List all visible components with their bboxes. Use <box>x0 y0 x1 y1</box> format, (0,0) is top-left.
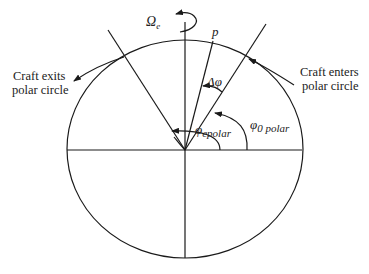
enter-label-line1: Craft enters <box>300 65 359 79</box>
center-arc-left <box>174 137 185 150</box>
exit-label-line2: polar circle <box>12 83 69 97</box>
phi-epolar-label: φepolar <box>195 122 232 139</box>
delta-phi-label: Δφ <box>206 74 222 89</box>
exit-label-line1: Craft exits <box>13 69 66 83</box>
enter-label-line2: polar circle <box>302 79 359 93</box>
exit-radial-line <box>108 30 185 150</box>
enter-arrow-icon <box>249 59 294 85</box>
polar-circle-diagram: Ωe p Δφ φepolar φ0 polar Craft exits pol… <box>0 0 369 274</box>
omega-label: Ωe <box>146 14 160 31</box>
phi0-polar-label: φ0 polar <box>250 117 290 134</box>
point-p-label: p <box>211 24 219 39</box>
rotation-arrow-icon <box>176 13 196 32</box>
